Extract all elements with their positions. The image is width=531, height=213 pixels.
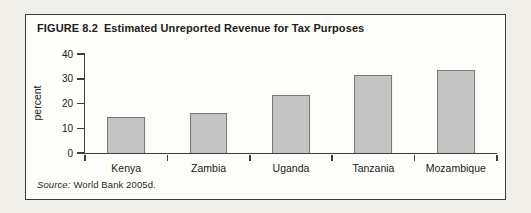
y-tick-label-40: 40 [49,48,73,61]
y-tick-label-20: 20 [49,97,73,110]
figure-number: FIGURE 8.2 [37,22,98,34]
y-tick-40 [77,53,85,55]
y-tick-label-10: 10 [49,122,73,135]
bar-zambia [190,113,228,153]
source-text: World Bank 2005d. [73,179,155,190]
x-tick-4 [414,155,416,162]
y-tick-30 [77,78,85,80]
x-tick-2 [249,155,251,162]
bar-mozambique [437,70,475,153]
figure-caption: Estimated Unreported Revenue for Tax Pur… [104,22,364,34]
y-tick-20 [77,103,85,105]
x-tick-1 [167,155,169,162]
figure-frame: FIGURE 8.2Estimated Unreported Revenue f… [25,14,506,200]
source-label: Source: [37,179,70,190]
source-note: Source:World Bank 2005d. [37,179,156,190]
y-tick-label-0: 0 [49,147,73,160]
y-axis-label: percent [31,68,43,138]
x-label-mozambique: Mozambique [401,162,511,174]
bar-uganda [272,95,310,153]
y-tick-10 [77,128,85,130]
x-tick-3 [331,155,333,162]
y-tick-label-30: 30 [49,72,73,85]
plot-area: 010203040KenyaZambiaUgandaTanzaniaMozamb… [84,54,497,154]
figure-title: FIGURE 8.2Estimated Unreported Revenue f… [37,22,364,34]
x-tick-0 [84,155,86,162]
page: { "figure": { "number": "FIGURE 8.2", "c… [0,0,531,213]
bar-kenya [107,117,145,153]
bar-tanzania [354,75,392,153]
x-tick-5 [496,155,498,162]
